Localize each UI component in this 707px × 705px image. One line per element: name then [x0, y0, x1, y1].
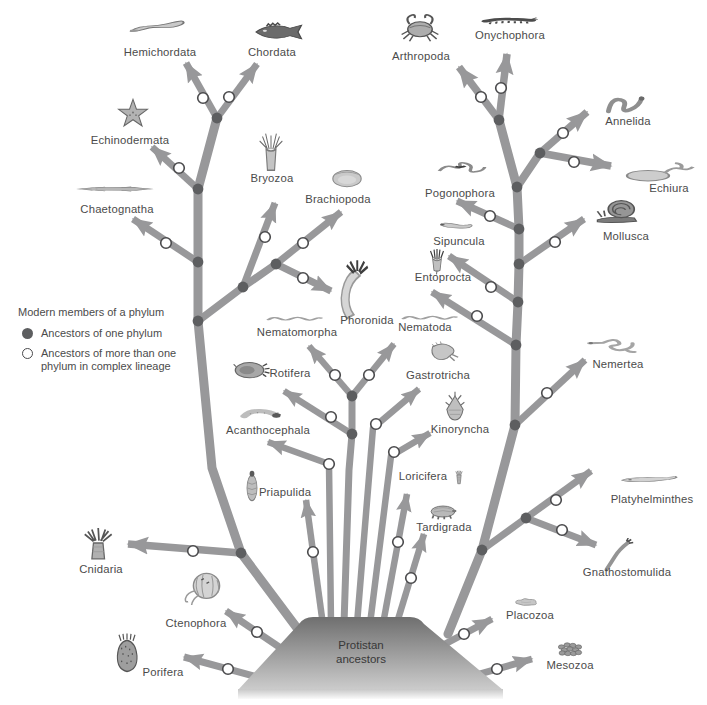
- water-bear-icon: [431, 506, 456, 519]
- ancestor-of-one-phylum-marker: [271, 259, 282, 270]
- phylum-label-echiura: Echiura: [649, 182, 689, 194]
- phylum-label-pogonophora: Pogonophora: [425, 187, 496, 199]
- gastrotrich-icon: [432, 342, 458, 361]
- ancestor-of-multiple-phyla-marker: [371, 419, 382, 430]
- mesozoan-icon: [558, 643, 581, 656]
- horseshoe-worm-icon: [341, 260, 367, 318]
- arrow-worm-icon: [79, 187, 151, 191]
- phylum-label-onychophora: Onychophora: [475, 29, 546, 41]
- annelid-fork-trunk: [517, 153, 540, 187]
- ancestor-of-multiple-phyla-marker: [472, 311, 483, 322]
- ancestor-of-one-phylum-marker: [511, 340, 522, 351]
- ancestor-of-one-phylum-marker: [512, 182, 523, 193]
- ancestor-of-multiple-phyla-marker: [298, 238, 309, 249]
- ancestor-of-multiple-phyla-marker: [330, 370, 341, 381]
- phylum-label-entoprocta: Entoprocta: [415, 271, 472, 283]
- ancestor-of-one-phylum-marker: [494, 115, 505, 126]
- ancestor-of-one-phylum-marker: [212, 113, 223, 124]
- phylum-label-platyhelminthes: Platyhelminthes: [611, 493, 694, 505]
- ancestor-of-multiple-phyla-marker: [364, 370, 375, 381]
- spoon-worm-icon: [627, 163, 693, 181]
- phylum-label-acanthocephala: Acanthocephala: [226, 424, 310, 436]
- legend-item-one-phylum: Ancestors of one phylum: [18, 327, 196, 341]
- ribbon-worm-icon: [589, 340, 635, 352]
- lamp-shell-icon: [333, 171, 361, 187]
- moss-animal-icon: [260, 134, 283, 171]
- branch-hemichordata: [186, 63, 217, 118]
- ancestor-of-multiple-phyla-marker: [551, 495, 562, 506]
- ancestor-of-multiple-phyla-marker: [326, 412, 337, 423]
- acorn-worm-icon: [130, 21, 184, 32]
- ancestor-of-multiple-phyla-marker: [550, 237, 561, 248]
- branch-chordata: [217, 64, 257, 118]
- ancestor-of-one-phylum-marker: [193, 184, 204, 195]
- phylum-label-nematoda: Nematoda: [398, 321, 452, 333]
- ancestor-of-multiple-phyla-marker: [198, 93, 209, 104]
- phylum-label-priapulida: Priapulida: [259, 486, 312, 498]
- ancestor-of-multiple-phyla-marker: [542, 388, 553, 399]
- phylum-label-phoronida: Phoronida: [340, 314, 394, 326]
- phylum-label-echinodermata: Echinodermata: [91, 134, 170, 146]
- legend-item-multiple-phyla: Ancestors of more than one phylum in com…: [18, 347, 196, 375]
- phylum-label-bryozoa: Bryozoa: [251, 172, 294, 184]
- segmented-worm-icon: [608, 96, 644, 111]
- ancestor-of-multiple-phyla-marker: [188, 546, 199, 557]
- ancestor-of-multiple-phyla-marker: [223, 664, 234, 675]
- protistan-ancestors-label: Protistan: [338, 639, 383, 651]
- phylum-label-sipuncula: Sipuncula: [433, 235, 485, 247]
- ancestor-of-multiple-phyla-marker: [558, 128, 569, 139]
- phylum-label-nematomorpha: Nematomorpha: [257, 326, 338, 338]
- ancestor-of-multiple-phyla-marker: [486, 282, 497, 293]
- ancestor-of-multiple-phyla-marker: [496, 83, 507, 94]
- jaw-worm-icon: [607, 538, 634, 570]
- filled-circle-icon: [22, 328, 33, 339]
- ancestor-of-multiple-phyla-marker: [298, 273, 309, 284]
- ancestor-of-multiple-phyla-marker: [260, 232, 271, 243]
- ancestor-of-multiple-phyla-marker: [389, 447, 400, 458]
- sponge-icon: [117, 633, 137, 671]
- phylum-label-arthropoda: Arthropoda: [392, 50, 450, 62]
- velvet-worm-icon: [486, 18, 538, 24]
- ancestor-of-multiple-phyla-marker: [557, 525, 568, 536]
- phylum-label-tardigrada: Tardigrada: [416, 521, 472, 533]
- phylum-label-gastrotricha: Gastrotricha: [406, 369, 470, 381]
- ancestor-of-one-phylum-marker: [238, 282, 249, 293]
- phylum-label-gnathostomulida: Gnathostomulida: [583, 566, 672, 578]
- phylum-label-mesozoa: Mesozoa: [546, 659, 594, 671]
- flatworm-icon: [622, 476, 676, 481]
- ancestor-of-multiple-phyla-marker: [492, 664, 503, 675]
- crab-icon: [402, 15, 439, 41]
- peanut-worm-icon: [440, 223, 472, 228]
- ancestor-of-one-phylum-marker: [535, 148, 546, 159]
- starfish-icon: [119, 99, 148, 126]
- mound-shadow: [238, 689, 503, 699]
- phylum-label-placozoa: Placozoa: [506, 609, 555, 621]
- branch-brachiopoda: [276, 212, 341, 264]
- ancestor-of-one-phylum-marker: [347, 429, 358, 440]
- ancestor-of-one-phylum-marker: [513, 297, 524, 308]
- ancestor-of-one-phylum-marker: [236, 548, 247, 559]
- ancestor-of-one-phylum-marker: [514, 224, 525, 235]
- sea-anemone-icon: [85, 528, 112, 559]
- legend-item-label: Ancestors of one phylum: [41, 327, 162, 341]
- branch-priapulida: [306, 500, 323, 625]
- ancestor-of-one-phylum-marker: [193, 257, 204, 268]
- protistan-ancestors-label: ancestors: [336, 653, 386, 665]
- lophophorate-trunk: [198, 264, 276, 321]
- phylum-label-nemertea: Nemertea: [592, 358, 644, 370]
- phylum-label-rotifera: Rotifera: [269, 367, 311, 379]
- roundworm-icon: [404, 316, 456, 319]
- ancestor-of-multiple-phyla-marker: [569, 157, 580, 168]
- phylum-label-annelida: Annelida: [605, 115, 651, 127]
- branch-nematoda: [352, 344, 394, 396]
- ancestor-of-one-phylum-marker: [521, 513, 532, 524]
- legend-item-label: Ancestors of more than one phylum in com…: [41, 347, 196, 375]
- beard-worm-icon: [439, 163, 485, 172]
- phylum-label-ctenophora: Ctenophora: [165, 617, 227, 629]
- ancestor-of-multiple-phyla-marker: [393, 537, 404, 548]
- branch-cnidaria: [128, 544, 241, 553]
- legend: Modern members of a phylum Ancestors of …: [18, 306, 196, 380]
- ancestor-of-multiple-phyla-marker: [252, 627, 263, 638]
- ancestor-of-multiple-phyla-marker: [224, 92, 235, 103]
- ancestor-of-multiple-phyla-marker: [406, 573, 417, 584]
